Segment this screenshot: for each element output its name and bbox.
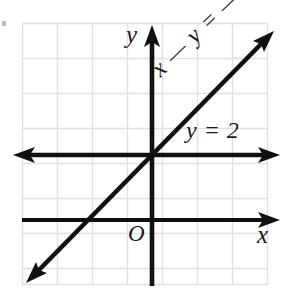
line-label-y-equals-2: y = 2: [186, 118, 239, 142]
y-axis-label: y: [126, 22, 137, 47]
x-axis-label: x: [257, 222, 268, 247]
graph-canvas: [0, 0, 291, 291]
origin-label: O: [128, 222, 145, 245]
coordinate-plane-figure: y x O y = 2 x — y = —2: [0, 0, 291, 291]
